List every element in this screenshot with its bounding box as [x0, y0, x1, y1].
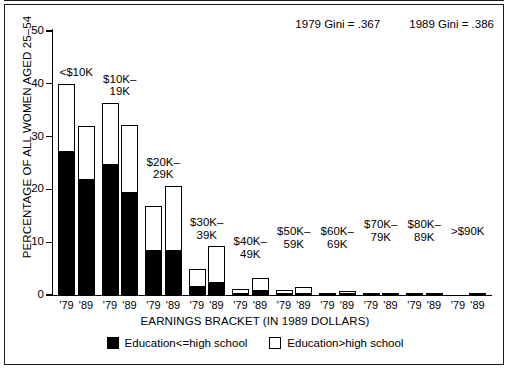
bar-1989[interactable] [339, 291, 356, 295]
x-axis-title: EARNINGS BRACKET (IN 1989 DOLLARS) [0, 315, 510, 327]
bar-segment-education-above-high-school[interactable] [469, 293, 486, 295]
bar-segment-education-at-or-below-high-school[interactable] [319, 293, 336, 295]
bar-1979[interactable] [232, 289, 249, 295]
bar-segment-education-at-or-below-high-school[interactable] [363, 293, 380, 295]
bar-1989[interactable] [295, 287, 312, 295]
bracket-label-line1: $20K– [132, 156, 195, 169]
bar-1979[interactable] [189, 269, 206, 295]
legend-label: Education>high school [287, 337, 403, 349]
bar-segment-education-at-or-below-high-school[interactable] [145, 250, 162, 295]
bar-segment-education-at-or-below-high-school[interactable] [252, 290, 269, 295]
legend-entry[interactable]: Education<=high school [107, 337, 248, 349]
chart-legend: Education<=high schoolEducation>high sch… [0, 337, 510, 349]
bar-1989[interactable] [426, 294, 443, 295]
bar-segment-education-at-or-below-high-school[interactable] [208, 282, 225, 295]
bracket-label: $10K–19K [89, 73, 152, 98]
bar-1979[interactable] [58, 84, 75, 295]
legend-swatch-filled-icon [107, 337, 119, 349]
bar-1989[interactable] [78, 126, 95, 295]
bar-segment-education-at-or-below-high-school[interactable] [295, 293, 312, 295]
bracket-label-line2: 29K [132, 168, 195, 181]
bar-segment-education-at-or-below-high-school[interactable] [102, 164, 119, 295]
legend-swatch-hollow-icon [269, 337, 281, 349]
bar-segment-education-at-or-below-high-school[interactable] [121, 192, 138, 295]
bar-1979[interactable] [363, 294, 380, 295]
bar-group [363, 31, 400, 295]
chart-figure: 1979 Gini = .367 1989 Gini = .386 010203… [0, 0, 510, 372]
x-tick-label-1989: '89 [75, 299, 98, 311]
bar-segment-education-at-or-below-high-school[interactable] [165, 250, 182, 295]
bar-1979[interactable] [319, 293, 336, 295]
bar-segment-education-at-or-below-high-school[interactable] [78, 179, 95, 295]
bar-1979[interactable] [102, 103, 119, 295]
bracket-label-line1: $30K– [176, 216, 239, 229]
x-tick-label-1989: '89 [379, 299, 402, 311]
bar-1989[interactable] [382, 293, 399, 295]
bar-segment-education-at-or-below-high-school[interactable] [189, 286, 206, 296]
bracket-label: >$90K [437, 225, 500, 238]
bar-1979[interactable] [276, 290, 293, 295]
legend-entry[interactable]: Education>high school [269, 337, 403, 349]
bar-group [319, 31, 356, 295]
bar-group [406, 31, 443, 295]
bar-segment-education-at-or-below-high-school[interactable] [382, 293, 399, 295]
bar-1979[interactable] [145, 206, 162, 295]
bar-segment-education-at-or-below-high-school[interactable] [426, 293, 443, 295]
bracket-label-line1: $10K– [89, 73, 152, 86]
bar-1989[interactable] [252, 278, 269, 295]
bar-1989[interactable] [469, 294, 486, 295]
x-tick-label-1989: '89 [162, 299, 185, 311]
bar-1979[interactable] [406, 294, 423, 295]
x-tick-label-1989: '89 [466, 299, 489, 311]
bracket-label-line1: >$90K [437, 225, 500, 238]
y-axis-title: PERCENTAGE OF ALL WOMEN AGED 25–54 [21, 0, 33, 282]
bar-1989[interactable] [121, 125, 138, 295]
bar-segment-education-at-or-below-high-school[interactable] [58, 151, 75, 295]
bar-segment-education-at-or-below-high-school[interactable] [232, 293, 249, 295]
x-tick-label-1989: '89 [249, 299, 272, 311]
bar-segment-education-at-or-below-high-school[interactable] [276, 293, 293, 295]
bar-segment-education-above-high-school[interactable] [406, 293, 423, 295]
x-tick-label-1989: '89 [292, 299, 315, 311]
bracket-label-line2: 19K [89, 85, 152, 98]
bar-segment-education-at-or-below-high-school[interactable] [339, 293, 356, 295]
legend-label: Education<=high school [125, 337, 248, 349]
x-tick-label-1989: '89 [205, 299, 228, 311]
x-tick-label-1989: '89 [336, 299, 359, 311]
bracket-label: $20K–29K [132, 156, 195, 181]
bar-group [450, 31, 487, 295]
x-tick-label-1989: '89 [423, 299, 446, 311]
x-tick-label-1989: '89 [118, 299, 141, 311]
